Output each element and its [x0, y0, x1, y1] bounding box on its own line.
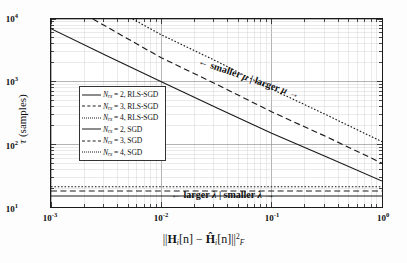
x-minus: −: [196, 232, 203, 246]
legend-item[interactable]: Nrx = 2, SGD: [82, 124, 162, 136]
legend: Nrx = 2, RLS-SGDNrx = 3, RLS-SGDNrx = 4,…: [79, 86, 166, 161]
legend-item-label: Nrx = 4, RLS-SGD: [103, 113, 158, 122]
legend-item-label: Nrx = 3, SGD: [103, 136, 142, 145]
x-matrix-Hhat: Ĥ: [206, 232, 215, 246]
legend-key-dashed: [82, 101, 101, 112]
legend-key-solid: [82, 124, 101, 135]
legend-item[interactable]: Nrx = 3, RLS-SGD: [82, 101, 162, 113]
x-matrix-H: H: [168, 232, 177, 246]
xtick-10e-3: 10-3: [43, 211, 57, 223]
ytick-10e4: 104: [6, 12, 18, 24]
chart-figure: ← smaller μ | larger μ → ← larger λ | sm…: [0, 0, 407, 263]
legend-key-dotted: [82, 112, 101, 123]
legend-item[interactable]: Nrx = 3, SGD: [82, 135, 162, 147]
lambda-annotation: ← larger λ | smaller λ →: [171, 189, 275, 200]
xtick-10e-1: 10-1: [265, 211, 279, 223]
x-sub-F: F: [240, 238, 245, 247]
x-axis-label: ||Hi[n] − Ĥi[n]||2F: [0, 232, 407, 247]
legend-item-label: Nrx = 3, RLS-SGD: [103, 102, 158, 111]
xtick-10e-2: 10-2: [154, 211, 168, 223]
y-axis-unit: (samples): [16, 94, 28, 137]
legend-item-label: Nrx = 2, SGD: [103, 125, 142, 134]
legend-key-dotted: [82, 147, 101, 158]
legend-item-label: Nrx = 4, SGD: [103, 148, 142, 157]
plot-area: ← smaller μ | larger μ → ← larger λ | sm…: [50, 18, 383, 208]
legend-item-label: Nrx = 2, RLS-SGD: [103, 90, 158, 99]
xtick-10e0: 100: [377, 211, 389, 223]
legend-item[interactable]: Nrx = 4, RLS-SGD: [82, 112, 162, 124]
legend-key-solid: [82, 89, 101, 100]
y-axis-label: τ (samples): [16, 59, 28, 179]
x-time-n: [n]: [179, 232, 193, 246]
legend-item[interactable]: Nrx = 2, RLS-SGD: [82, 89, 162, 101]
legend-item[interactable]: Nrx = 4, SGD: [82, 147, 162, 159]
x-time-n-2: [n]: [217, 232, 231, 246]
y-axis-tau: τ: [16, 140, 28, 144]
ytick-10e1: 101: [6, 202, 18, 214]
legend-key-dashed: [82, 135, 101, 146]
